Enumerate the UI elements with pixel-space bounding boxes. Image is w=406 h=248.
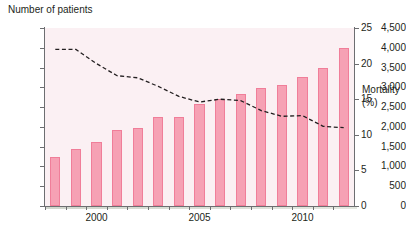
x-tick	[107, 206, 108, 210]
left-tick-label: 3,000	[368, 81, 406, 92]
right-tick-label: 25	[361, 22, 372, 33]
x-tick	[86, 206, 87, 210]
right-tick	[354, 135, 359, 136]
x-tick	[169, 206, 170, 210]
x-tick	[251, 206, 252, 210]
left-tick	[40, 147, 45, 148]
bar	[236, 94, 246, 206]
chart-container: Number of patients Mortality (%) 05001,0…	[0, 0, 406, 248]
x-tick	[292, 206, 293, 210]
left-tick	[40, 166, 45, 167]
x-tick-label: 2010	[291, 212, 313, 223]
bar	[194, 104, 204, 206]
bar	[277, 85, 287, 206]
left-tick-label: 4,000	[368, 42, 406, 53]
left-tick	[40, 48, 45, 49]
left-tick	[40, 28, 45, 29]
x-tick	[210, 206, 211, 210]
bar	[297, 77, 307, 206]
left-tick-label: 4,500	[368, 22, 406, 33]
left-tick	[40, 127, 45, 128]
left-tick-label: 1,500	[368, 141, 406, 152]
right-tick	[354, 170, 359, 171]
left-tick-label: 0	[368, 200, 406, 211]
bar	[133, 128, 143, 206]
bar	[91, 142, 101, 206]
bar	[71, 149, 81, 206]
x-tick	[230, 206, 231, 210]
left-tick-label: 3,500	[368, 62, 406, 73]
right-tick-label: 5	[361, 164, 367, 175]
x-tick-label: 2000	[85, 212, 107, 223]
left-axis-line	[44, 27, 45, 207]
bar	[153, 117, 163, 206]
right-tick	[354, 206, 359, 207]
x-tick	[272, 206, 273, 210]
right-tick-label: 0	[361, 200, 367, 211]
bar	[339, 48, 349, 206]
left-tick-label: 2,500	[368, 101, 406, 112]
left-tick	[40, 107, 45, 108]
x-tick	[148, 206, 149, 210]
x-tick	[189, 206, 190, 210]
left-tick-label: 500	[368, 180, 406, 191]
left-tick	[40, 87, 45, 88]
x-tick-label: 2005	[188, 212, 210, 223]
bar	[215, 99, 225, 206]
bar	[318, 68, 328, 206]
right-tick	[354, 64, 359, 65]
right-axis-line	[354, 27, 355, 207]
right-tick	[354, 28, 359, 29]
bar	[50, 157, 60, 206]
x-tick	[313, 206, 314, 210]
left-tick	[40, 68, 45, 69]
left-tick-label: 2,000	[368, 121, 406, 132]
x-tick	[45, 206, 46, 210]
left-tick-label: 1,000	[368, 160, 406, 171]
left-tick	[40, 186, 45, 187]
x-tick	[66, 206, 67, 210]
right-tick-label: 20	[361, 58, 372, 69]
left-axis-title: Number of patients	[8, 4, 93, 15]
bar	[112, 130, 122, 206]
right-tick-label: 15	[361, 93, 372, 104]
x-tick	[127, 206, 128, 210]
x-tick	[333, 206, 334, 210]
right-tick-label: 10	[361, 129, 372, 140]
right-tick	[354, 99, 359, 100]
bar	[174, 117, 184, 206]
baseline-shadow	[45, 207, 357, 209]
bar	[256, 88, 266, 206]
